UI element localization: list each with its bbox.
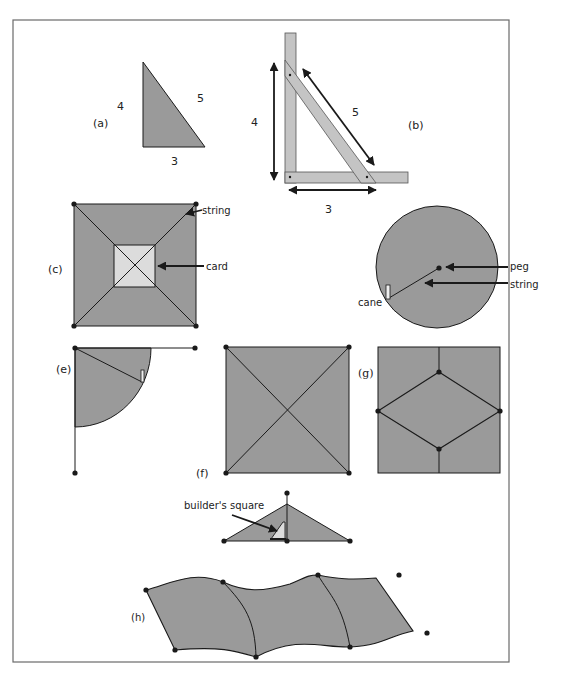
panel-e-quarter-circle: (e) (56, 345, 198, 475)
side-4-label: 4 (117, 100, 124, 113)
peg (172, 647, 177, 652)
figure-frame (13, 20, 509, 662)
peg-callout: peg (510, 261, 529, 272)
side-5-label: 5 (352, 106, 359, 119)
peg (284, 538, 289, 543)
peg (71, 201, 76, 206)
peg (346, 344, 351, 349)
cane (386, 285, 390, 299)
side-3-label: 3 (171, 155, 178, 168)
peg (346, 470, 351, 475)
peg (375, 408, 380, 413)
panel-a-label: (a) (93, 117, 108, 130)
panel-c-label: (c) (48, 263, 63, 276)
peg (193, 201, 198, 206)
nail-bottom (366, 176, 368, 178)
panel-g-diamond: (g) (358, 347, 503, 473)
side-4-label: 4 (251, 116, 258, 129)
nail-corner (289, 176, 291, 178)
panel-a-triangle: (a) 4 5 3 (93, 62, 205, 168)
side-3-label: 3 (325, 203, 332, 216)
panel-h-wavy-bed: (h) (131, 572, 430, 659)
peg (436, 446, 441, 451)
peg (223, 470, 228, 475)
peg (193, 323, 198, 328)
quarter-circle-plot (75, 348, 151, 427)
peg (347, 538, 352, 543)
peg (497, 408, 502, 413)
panel-e-label: (e) (56, 363, 71, 376)
peg (396, 572, 401, 577)
side-5-label: 5 (197, 92, 204, 105)
cane (141, 370, 144, 382)
panel-h-label: (h) (131, 612, 145, 623)
horizontal-batten (285, 172, 408, 183)
builders-square-callout: builder's square (184, 500, 264, 511)
peg (284, 490, 289, 495)
nail-top (289, 74, 291, 76)
peg (436, 265, 441, 270)
garden-layout-diagram: (a) 4 5 3 4 5 3 (b) (c) (0, 0, 574, 684)
peg (253, 654, 258, 659)
peg (221, 538, 226, 543)
panel-d-circle: peg string cane (358, 206, 539, 328)
diagonal-batten (285, 60, 376, 183)
peg (315, 572, 320, 577)
panel-g-label: (g) (358, 367, 374, 380)
wavy-strip-plot (146, 575, 413, 657)
string-callout: string (202, 205, 231, 216)
panel-f-builders-square-triangle: builder's square (184, 490, 353, 543)
panel-f-label: (f) (196, 467, 208, 480)
cane-callout: cane (358, 297, 382, 308)
peg (436, 369, 441, 374)
peg (72, 470, 77, 475)
peg (347, 644, 352, 649)
right-triangle (143, 62, 205, 147)
peg (72, 345, 77, 350)
peg (143, 587, 148, 592)
vertical-batten (285, 33, 296, 183)
peg (220, 579, 225, 584)
panel-f-square-diagonals: (f) (196, 344, 352, 480)
panel-b-label: (b) (408, 119, 424, 132)
card-callout: card (206, 261, 228, 272)
peg (424, 630, 429, 635)
panel-c-square-with-card: (c) string card (48, 201, 231, 328)
string-callout: string (510, 279, 539, 290)
peg (192, 345, 197, 350)
peg (71, 323, 76, 328)
peg (223, 344, 228, 349)
panel-b-wooden-square: 4 5 3 (b) (251, 33, 424, 216)
